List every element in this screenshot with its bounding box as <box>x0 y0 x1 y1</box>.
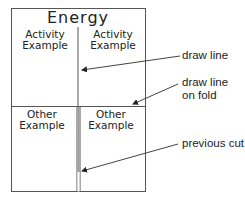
cell-bottom-right: Other Example <box>83 109 139 131</box>
arrow-draw-line-on-fold <box>133 84 178 104</box>
callout-line: draw line <box>182 76 228 89</box>
cell-bottom-left: Other Example <box>14 109 70 131</box>
cell-label-line: Example <box>14 120 70 131</box>
callout-draw-line-on-fold: draw line on fold <box>182 76 228 102</box>
cell-label-line: Example <box>14 40 76 51</box>
cell-label-line: Example <box>83 120 139 131</box>
callout-previous-cut: previous cut <box>182 137 244 150</box>
diagram-title: Energy <box>11 8 145 27</box>
cell-top-right: Activity Example <box>82 29 144 51</box>
cell-label-line: Example <box>82 40 144 51</box>
arrow-previous-cut <box>82 144 178 171</box>
cell-top-left: Activity Example <box>14 29 76 51</box>
arrow-draw-line <box>82 56 180 70</box>
callout-draw-line: draw line <box>182 49 228 62</box>
foldable-diagram: Energy Activity Example Activity Example… <box>0 0 245 200</box>
callout-line: on fold <box>182 89 228 102</box>
